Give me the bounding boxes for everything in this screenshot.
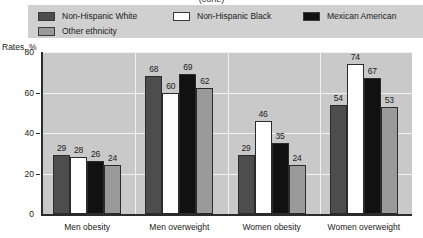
chart-title-remnant: (cont.) [0, 0, 423, 4]
bar [53, 155, 70, 214]
bar-value-label: 35 [268, 132, 293, 141]
x-category-label: Men obesity [41, 222, 133, 232]
y-tick-label: 80 [2, 48, 34, 56]
bar-value-label: 69 [175, 63, 200, 72]
bar [238, 155, 255, 214]
x-axis-category-labels: Men obesityMen overweightWomen obesityWo… [41, 222, 410, 236]
bar [145, 76, 162, 214]
y-tick-mark [36, 133, 40, 134]
bar [347, 64, 364, 214]
group-separator [228, 52, 229, 214]
bar-value-label: 68 [141, 65, 166, 74]
bar-value-label: 46 [251, 110, 276, 119]
y-tick-label: 20 [2, 170, 34, 178]
bar [70, 157, 87, 214]
bar-value-label: 67 [360, 67, 385, 76]
legend-label: Non-Hispanic White [62, 11, 137, 21]
legend-swatch-icon [303, 12, 320, 21]
y-tick-label: 0 [2, 210, 34, 218]
chart-screenshot: (cont.) Non-Hispanic WhiteNon-Hispanic B… [0, 0, 423, 238]
legend-label: Other ethnicity [62, 26, 117, 36]
x-category-label: Men overweight [133, 222, 225, 232]
legend-label: Mexican American [327, 11, 396, 21]
y-tick-label: 40 [2, 129, 34, 137]
bar-value-label: 74 [343, 53, 368, 62]
bar [87, 161, 104, 214]
bar [104, 165, 121, 214]
y-tick-mark [36, 174, 40, 175]
legend-other-ethnicity: Other ethnicity [38, 24, 117, 38]
legend-swatch-icon [173, 12, 190, 21]
y-tick-label: 60 [2, 89, 34, 97]
y-tick-mark [36, 93, 40, 94]
bar-value-label: 53 [377, 96, 402, 105]
x-category-label: Women overweight [318, 222, 410, 232]
legend-non-hispanic-white: Non-Hispanic White [38, 9, 137, 23]
bar [162, 93, 179, 215]
bar [381, 107, 398, 214]
x-category-label: Women obesity [226, 222, 318, 232]
group-separator [135, 52, 136, 214]
legend-label: Non-Hispanic Black [197, 11, 271, 21]
legend-swatch-icon [38, 12, 55, 21]
bar-value-label: 24 [285, 154, 310, 163]
bar [179, 74, 196, 214]
bar-value-label: 24 [100, 154, 125, 163]
legend-non-hispanic-black: Non-Hispanic Black [173, 9, 271, 23]
bar [196, 88, 213, 214]
chart-legend: Non-Hispanic WhiteNon-Hispanic BlackMexi… [28, 5, 423, 38]
bar-value-label: 62 [192, 77, 217, 86]
group-separator [320, 52, 321, 214]
legend-swatch-icon [38, 27, 55, 36]
legend-mexican-american: Mexican American [303, 9, 396, 23]
y-axis-ticks: 806040200 [0, 0, 34, 238]
plot-area: 29282624686069622946352454746753 [41, 52, 412, 216]
bar [289, 165, 306, 214]
bar [330, 105, 347, 214]
